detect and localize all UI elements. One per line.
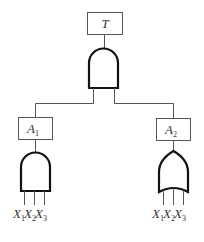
a2-input-x1: X1 bbox=[151, 206, 164, 223]
a1-input-x2: X2 bbox=[23, 206, 36, 223]
top-event-label: T bbox=[101, 16, 109, 31]
top-event: T bbox=[88, 13, 123, 35]
a1-input-x1: X1 bbox=[12, 206, 25, 223]
a1-input-x3: X3 bbox=[34, 206, 47, 223]
a2-or-gate-icon bbox=[159, 151, 188, 192]
a2-input-x2: X2 bbox=[162, 206, 175, 223]
top-and-gate-icon bbox=[89, 49, 118, 89]
a2-input-x3: X3 bbox=[173, 206, 186, 223]
left-branch-wire bbox=[36, 88, 94, 117]
right-branch-wire bbox=[115, 88, 174, 118]
a1-and-gate-icon bbox=[21, 153, 50, 192]
fault-tree-diagram: T A1 X1 X2 X3 A2 X1 X2 X3 bbox=[0, 0, 204, 242]
event-a2: A2 bbox=[157, 119, 191, 141]
event-a1: A1 bbox=[19, 118, 53, 140]
